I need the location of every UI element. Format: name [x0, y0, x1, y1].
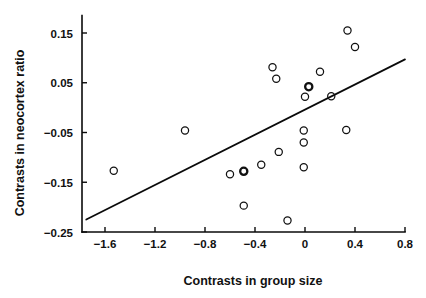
- data-point-7: [273, 75, 280, 82]
- x-tick-label-4: 0: [302, 238, 308, 250]
- data-point-12: [300, 164, 307, 171]
- y-axis-title: Contrasts in neocortex ratio: [13, 49, 27, 216]
- x-tick-label-0: −1.6: [94, 238, 117, 250]
- y-tick-label-3: −0.15: [44, 177, 74, 189]
- x-tick-label-6: 0.8: [397, 238, 414, 250]
- y-tick-label-4: −0.25: [44, 227, 74, 239]
- y-tick-label-0: 0.15: [51, 28, 74, 40]
- x-tick-label-3: −0.4: [244, 238, 267, 250]
- data-point-6: [269, 64, 276, 71]
- x-tick-label-1: −1.2: [144, 238, 167, 250]
- data-point-3: [240, 168, 247, 175]
- data-point-9: [284, 217, 291, 224]
- data-point-18: [344, 27, 351, 34]
- data-points: [110, 27, 358, 224]
- data-point-1: [181, 127, 188, 134]
- trend-line-path: [86, 59, 405, 219]
- data-point-0: [110, 167, 117, 174]
- data-point-5: [258, 161, 265, 168]
- axis-tick-labels: −1.6−1.2−0.8−0.400.40.80.150.05−0.05−0.1…: [44, 28, 414, 251]
- data-point-2: [226, 171, 233, 178]
- x-tick-label-5: 0.4: [347, 238, 364, 250]
- y-tick-label-1: 0.05: [51, 77, 74, 89]
- chart-canvas: −1.6−1.2−0.8−0.400.40.80.150.05−0.05−0.1…: [0, 0, 426, 298]
- data-point-11: [300, 139, 307, 146]
- data-point-4: [240, 202, 247, 209]
- data-point-10: [300, 127, 307, 134]
- data-point-19: [351, 43, 358, 50]
- regression-line: [86, 59, 405, 219]
- data-point-13: [301, 93, 308, 100]
- x-tick-label-2: −0.8: [194, 238, 217, 250]
- data-point-17: [343, 126, 350, 133]
- data-point-15: [316, 68, 323, 75]
- scatter-plot-figure: −1.6−1.2−0.8−0.400.40.80.150.05−0.05−0.1…: [0, 0, 426, 298]
- y-tick-label-2: −0.05: [44, 127, 74, 139]
- data-point-8: [275, 148, 282, 155]
- x-axis-title: Contrasts in group size: [184, 274, 323, 288]
- axes: [82, 16, 405, 232]
- data-point-14: [305, 83, 312, 90]
